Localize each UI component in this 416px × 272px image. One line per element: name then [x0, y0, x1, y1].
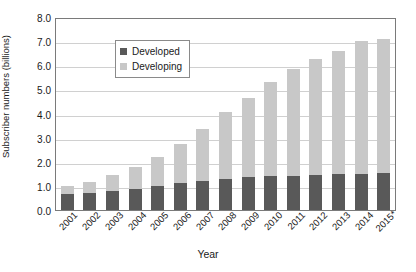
x-axis-tick-label: 2014	[352, 209, 375, 232]
bar-group[interactable]	[61, 19, 74, 210]
bar-segment-developed[interactable]	[332, 174, 345, 210]
x-axis-title: Year	[0, 248, 416, 260]
plot-area: Developed Developing	[55, 18, 396, 211]
bar-segment-developing[interactable]	[106, 175, 119, 191]
bar-segment-developing[interactable]	[61, 186, 74, 194]
bar-segment-developing[interactable]	[196, 129, 209, 180]
bar-segment-developing[interactable]	[83, 182, 96, 192]
x-axis-tick-label: 2011	[285, 210, 307, 232]
x-axis-tick: 2010	[264, 213, 277, 247]
bar-segment-developing[interactable]	[264, 82, 277, 176]
x-axis-tick: 2014	[355, 213, 368, 247]
x-axis-tick: 2004	[128, 213, 141, 247]
x-axis-tick-label: 2013	[330, 209, 353, 232]
y-axis-tick-label: 0.0	[7, 206, 51, 217]
y-axis-tick-label: 5.0	[7, 85, 51, 96]
x-axis-tick-label: 2005	[148, 209, 171, 232]
x-axis-tick: 2015*	[378, 213, 391, 247]
y-axis-tick-label: 3.0	[7, 133, 51, 144]
bar-segment-developed[interactable]	[219, 179, 232, 210]
bar-segment-developed[interactable]	[61, 194, 74, 210]
bar-segment-developed[interactable]	[129, 189, 142, 210]
bar-segment-developing[interactable]	[309, 59, 322, 175]
x-axis-ticks: 2001200220032004200520062007200820092010…	[55, 213, 396, 247]
bar-segment-developing[interactable]	[377, 39, 390, 174]
bar-segment-developed[interactable]	[83, 193, 96, 210]
legend-item-developed: Developed	[120, 44, 182, 59]
bar-group[interactable]	[287, 19, 300, 210]
legend-label-developed: Developed	[132, 46, 180, 57]
y-axis-ticks: 8.07.06.05.04.03.02.01.00.0	[5, 18, 51, 211]
x-axis-tick: 2001	[60, 213, 73, 247]
bar-segment-developing[interactable]	[332, 51, 345, 175]
bar-segment-developed[interactable]	[264, 176, 277, 210]
x-axis-tick-label: 2008	[216, 209, 239, 232]
bar-segment-developed[interactable]	[174, 183, 187, 210]
legend-label-developing: Developing	[132, 61, 182, 72]
y-axis-tick-label: 1.0	[7, 181, 51, 192]
bar-group[interactable]	[309, 19, 322, 210]
y-axis-tick-label: 4.0	[7, 109, 51, 120]
bar-segment-developing[interactable]	[174, 144, 187, 184]
bar-series-container	[56, 19, 395, 210]
y-axis-tick-label: 6.0	[7, 61, 51, 72]
x-axis-tick: 2008	[219, 213, 232, 247]
bar-group[interactable]	[377, 19, 390, 210]
y-axis-tick-label: 7.0	[7, 37, 51, 48]
legend-swatch-developing	[120, 63, 127, 70]
x-axis-tick-label: 2010	[262, 209, 285, 232]
bar-segment-developed[interactable]	[196, 181, 209, 210]
x-axis-tick: 2002	[83, 213, 96, 247]
bar-group[interactable]	[242, 19, 255, 210]
x-axis-tick-label: 2009	[239, 209, 262, 232]
bar-segment-developed[interactable]	[287, 176, 300, 210]
bar-segment-developing[interactable]	[287, 69, 300, 176]
x-axis-tick-label: 2006	[171, 209, 194, 232]
bar-group[interactable]	[355, 19, 368, 210]
x-axis-tick: 2013	[332, 213, 345, 247]
bar-segment-developed[interactable]	[377, 173, 390, 210]
x-axis-tick: 2005	[151, 213, 164, 247]
bar-segment-developing[interactable]	[355, 41, 368, 174]
x-axis-tick-label: 2004	[125, 209, 148, 232]
bar-group[interactable]	[196, 19, 209, 210]
chart-legend: Developed Developing	[115, 40, 190, 78]
bar-segment-developing[interactable]	[151, 157, 164, 186]
x-axis-tick: 2009	[242, 213, 255, 247]
x-axis-tick: 2006	[173, 213, 186, 247]
bar-group[interactable]	[83, 19, 96, 210]
y-axis-tick-label: 8.0	[7, 13, 51, 24]
x-axis-tick-label: 2012	[307, 209, 330, 232]
bar-segment-developing[interactable]	[129, 167, 142, 189]
y-axis-tick-label: 2.0	[7, 157, 51, 168]
chart-figure: Subscriber numbers (billions) 8.07.06.05…	[0, 0, 416, 272]
x-axis-tick-label: 2002	[80, 209, 103, 232]
legend-swatch-developed	[120, 48, 127, 55]
legend-item-developing: Developing	[120, 59, 182, 74]
bar-group[interactable]	[332, 19, 345, 210]
x-axis-tick: 2011	[287, 213, 300, 247]
x-axis-tick-label: 2001	[57, 209, 80, 232]
bar-group[interactable]	[264, 19, 277, 210]
bar-segment-developed[interactable]	[355, 174, 368, 210]
x-axis-tick-label: 2015*	[374, 208, 399, 233]
bar-segment-developed[interactable]	[106, 191, 119, 210]
bar-segment-developing[interactable]	[219, 112, 232, 178]
x-axis-tick: 2012	[310, 213, 323, 247]
x-axis-tick-label: 2007	[193, 209, 216, 232]
x-axis-tick: 2003	[105, 213, 118, 247]
x-axis-tick-label: 2003	[103, 209, 126, 232]
bar-segment-developing[interactable]	[242, 98, 255, 177]
bar-segment-developed[interactable]	[151, 186, 164, 210]
bar-group[interactable]	[219, 19, 232, 210]
bar-segment-developed[interactable]	[242, 177, 255, 210]
x-axis-tick: 2007	[196, 213, 209, 247]
bar-segment-developed[interactable]	[309, 175, 322, 210]
